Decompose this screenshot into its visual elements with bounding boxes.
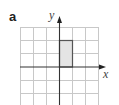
shaded-rectangle: [60, 41, 73, 68]
x-axis-arrow-icon: [99, 65, 106, 70]
y-axis-arrow-icon: [57, 16, 62, 23]
coordinate-grid: [0, 0, 119, 105]
